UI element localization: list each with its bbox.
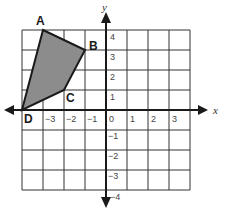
svg-text:−1: −1 [87,114,97,124]
svg-text:3: 3 [110,52,115,62]
svg-text:3: 3 [172,114,177,124]
y-axis-label: y [101,1,107,13]
svg-text:−3: −3 [45,114,55,124]
vertex-label-d: D [24,112,33,126]
coordinate-plane: x y −3 −2 −1 0 1 2 3 4 3 2 1 −1 −2 −3 −4… [0,0,226,210]
vertex-label-a: A [36,14,45,28]
arrow-left-icon [4,105,14,115]
svg-text:1: 1 [130,114,135,124]
svg-text:−2: −2 [108,151,118,161]
vertex-label-b: B [89,39,98,53]
svg-text:−3: −3 [108,171,118,181]
svg-text:−1: −1 [108,131,118,141]
arrow-right-icon [198,105,208,115]
svg-text:2: 2 [151,114,156,124]
svg-text:−4: −4 [110,192,120,202]
svg-text:4: 4 [110,32,115,42]
svg-text:1: 1 [110,92,115,102]
svg-text:2: 2 [110,72,115,82]
x-axis-label: x [212,104,218,116]
vertex-label-c: C [66,91,75,105]
x-tick-labels: −3 −2 −1 0 1 2 3 [45,114,177,124]
svg-text:−2: −2 [66,114,76,124]
arrow-up-icon [101,12,111,23]
svg-text:0: 0 [109,114,114,124]
